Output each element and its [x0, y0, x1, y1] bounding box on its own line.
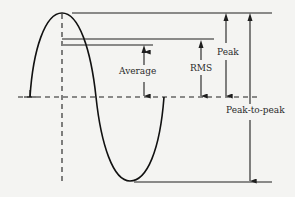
p2p-arrowhead-up	[248, 13, 253, 21]
peak-arrowhead-up	[224, 13, 229, 21]
average-arrowhead-up	[142, 45, 147, 53]
waveform-diagram: Average RMS Peak Peak-to-peak	[0, 0, 295, 197]
peak-to-peak-label: Peak-to-peak	[226, 105, 285, 115]
peak-label: Peak	[217, 47, 239, 57]
average-label: Average	[118, 66, 156, 76]
sine-wave	[30, 13, 164, 181]
rms-label: RMS	[190, 63, 212, 73]
rms-arrowhead-up	[199, 40, 204, 48]
